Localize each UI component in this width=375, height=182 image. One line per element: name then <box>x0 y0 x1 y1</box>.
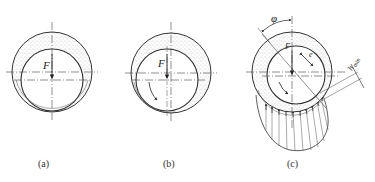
panel-c: φ F e h min (c) <box>246 12 364 170</box>
force-label: F <box>42 59 50 71</box>
panel-caption: (c) <box>287 158 298 170</box>
force-label: F <box>284 42 290 51</box>
panel-b: F (b) <box>125 22 217 170</box>
phi-angle-arc <box>264 20 291 30</box>
force-label: F <box>157 57 165 69</box>
panel-caption: (a) <box>38 158 49 170</box>
panel-a: F (a) <box>6 22 98 170</box>
hmin-label: h min <box>346 55 362 72</box>
panel-caption: (b) <box>163 158 175 170</box>
svg-text:min: min <box>352 57 362 68</box>
phi-label: φ <box>271 12 277 24</box>
bearing-diagram: F (a) F (b) <box>0 0 375 182</box>
journal-circle <box>267 46 325 104</box>
eccentricity-label: e <box>309 50 313 59</box>
